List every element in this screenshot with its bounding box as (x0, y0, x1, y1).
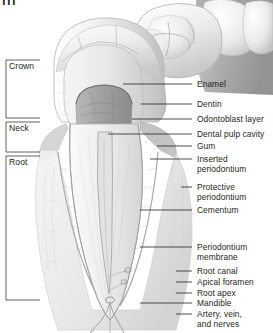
callout-label: Apical foramen (197, 278, 254, 288)
label-layer: CrownNeckRoot EnamelDentinOdontoblast la… (0, 0, 273, 333)
callout-label: Odontoblast layer (197, 115, 264, 125)
callout-label: Mandible (197, 299, 232, 309)
callout-label: Enamel (197, 80, 226, 90)
callout-label-text: Gum (197, 142, 215, 152)
callout-label-text: Cementum (197, 206, 239, 216)
callout-label-text-line2: periodontium (197, 193, 246, 203)
callout-label: Protectiveperiodontium (197, 183, 246, 202)
callout-label-text-line2: periodontium (197, 165, 246, 175)
callout-label-text: Odontoblast layer (197, 115, 264, 125)
callout-label: Periodontiummembrane (197, 243, 247, 262)
bracket-label: Neck (9, 124, 29, 134)
callout-label-text: Dentin (197, 100, 222, 110)
callout-label-text: Dental pulp cavity (197, 130, 264, 140)
bracket-label: Root (9, 158, 27, 168)
callout-label-text: Root canal (197, 267, 238, 277)
callout-label-text-line2: and nerves (197, 320, 242, 330)
callout-label: Root canal (197, 267, 238, 277)
callout-label: Gum (197, 142, 215, 152)
tooth-anatomy-figure: ||| (0, 0, 273, 333)
callout-label: Insertedperiodontium (197, 155, 246, 174)
callout-label-text: Enamel (197, 80, 226, 90)
callout-label: Artery, vein,and nerves (197, 310, 242, 329)
bracket-label: Crown (9, 62, 34, 72)
callout-label-text: Mandible (197, 299, 232, 309)
callout-label: Dentin (197, 100, 222, 110)
callout-label: Dental pulp cavity (197, 130, 264, 140)
callout-label: Cementum (197, 206, 239, 216)
callout-label-text: Apical foramen (197, 278, 254, 288)
callout-label-text-line2: membrane (197, 253, 247, 263)
